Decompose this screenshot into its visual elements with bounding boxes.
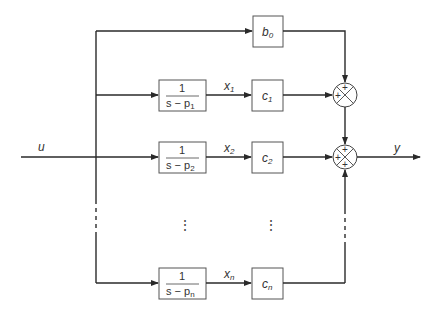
block-diagram: u b0 1 s − p1 x1 c1 1 s − p2 x2 [0, 0, 444, 322]
state-label-n: xn [223, 267, 235, 282]
branch-1: 1 s − p1 x1 c1 [96, 79, 332, 111]
svg-text:+: + [335, 152, 341, 163]
branch-2: 1 s − p2 x2 c2 [96, 141, 332, 173]
summing-junction-1: + + [333, 82, 357, 144]
state-label-2: x2 [223, 141, 235, 156]
output-label: y [393, 141, 401, 155]
output-signal: y [357, 141, 420, 157]
svg-text:1: 1 [179, 82, 185, 94]
svg-text:+: + [335, 90, 341, 101]
branch-n: 1 s − pn xn cn [96, 170, 345, 299]
svg-text:1: 1 [179, 144, 185, 156]
svg-text:+: + [342, 159, 348, 170]
feedthrough-path: b0 [96, 16, 345, 82]
ellipsis-gain: ⋮ [264, 217, 278, 233]
state-label-1: x1 [223, 79, 234, 94]
svg-text:1: 1 [179, 270, 185, 282]
input-signal: u [21, 140, 96, 157]
ellipsis-transfer: ⋮ [178, 217, 192, 233]
svg-text:+: + [342, 82, 348, 93]
input-label: u [38, 140, 45, 154]
svg-text:+: + [342, 144, 348, 155]
summing-junction-2: + + + [333, 144, 357, 170]
